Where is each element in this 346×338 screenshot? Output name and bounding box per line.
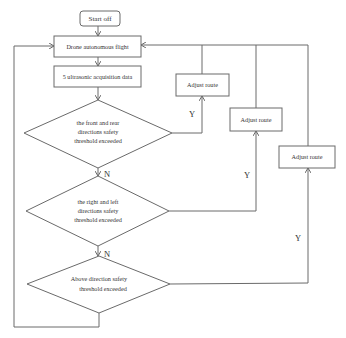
adjust-route-node-3: Adjust route xyxy=(279,146,335,168)
decision-right-left: the right and left directions safety thr… xyxy=(26,176,169,246)
arrow-decision2-yes xyxy=(169,131,256,211)
adjust-route-node-1: Adjust route xyxy=(176,74,229,96)
acquire-label: 5 ultrasonic acquisition data xyxy=(63,73,133,80)
acquire-node: 5 ultrasonic acquisition data xyxy=(54,66,141,87)
decision1-line2: directions safety xyxy=(78,128,120,135)
arrow-decision1-yes xyxy=(172,96,202,133)
no-label-2: N xyxy=(104,249,110,259)
decision1-line1: the front and rear xyxy=(77,119,120,126)
yes-label-2: Y xyxy=(244,170,250,180)
decision-front-rear: the front and rear directions safety thr… xyxy=(24,100,172,168)
decision2-line2: directions safety xyxy=(78,207,120,214)
yes-label-3: Y xyxy=(295,233,301,243)
flight-label: Drone autonomous flight xyxy=(66,43,128,50)
decision2-line3: threshold exceeded xyxy=(74,216,122,223)
decision2-line1: the right and left xyxy=(77,198,118,205)
start-label: Start off xyxy=(88,15,112,23)
arrow-decision3-yes xyxy=(170,168,308,284)
no-label-1: N xyxy=(104,169,110,179)
yes-label-1: Y xyxy=(189,109,195,119)
adjust-route-label-3: Adjust route xyxy=(292,153,323,160)
flight-node: Drone autonomous flight xyxy=(54,36,141,57)
adjust-route-label-1: Adjust route xyxy=(187,81,218,88)
decision1-line3: threshold exceeded xyxy=(74,137,122,144)
decision-above: Above direction safety threshold exceede… xyxy=(27,256,170,313)
flowchart-canvas: Start off Drone autonomous flight 5 ultr… xyxy=(0,0,346,338)
decision3-line2: threshold exceeded xyxy=(79,285,127,292)
adjust-route-label-2: Adjust route xyxy=(241,116,272,123)
adjust-route-node-2: Adjust route xyxy=(230,108,282,131)
decision3-line1: Above direction safety xyxy=(71,275,128,282)
start-node: Start off xyxy=(80,11,120,26)
